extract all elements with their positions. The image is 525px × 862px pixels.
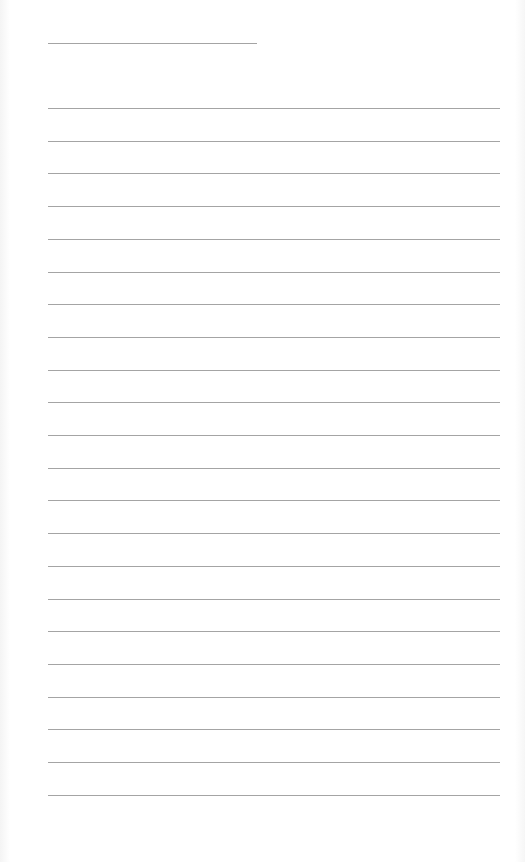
ruled-line — [48, 141, 500, 142]
lined-page — [0, 0, 525, 862]
ruled-line — [48, 206, 500, 207]
ruled-line — [48, 173, 500, 174]
ruled-line — [48, 370, 500, 371]
ruled-line — [48, 435, 500, 436]
ruled-line — [48, 795, 500, 796]
ruled-line — [48, 697, 500, 698]
ruled-line — [48, 108, 500, 109]
ruled-line — [48, 762, 500, 763]
ruled-line — [48, 566, 500, 567]
ruled-line — [48, 468, 500, 469]
ruled-line — [48, 599, 500, 600]
ruled-line — [48, 664, 500, 665]
ruled-line — [48, 337, 500, 338]
ruled-line — [48, 631, 500, 632]
ruled-line — [48, 239, 500, 240]
ruled-line — [48, 304, 500, 305]
ruled-line — [48, 729, 500, 730]
ruled-line — [48, 533, 500, 534]
header-line — [48, 43, 257, 44]
ruled-line — [48, 500, 500, 501]
ruled-line — [48, 402, 500, 403]
ruled-line — [48, 272, 500, 273]
